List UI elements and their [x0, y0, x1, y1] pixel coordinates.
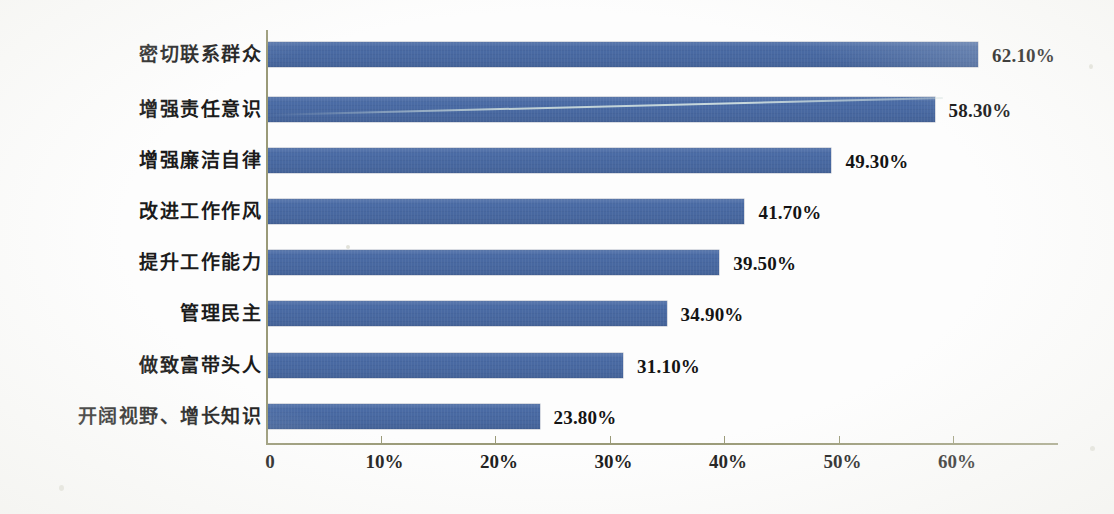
- category-label: 做致富带头人: [139, 356, 262, 375]
- scan-speck: [59, 485, 64, 491]
- x-axis-tick-label: 40%: [709, 452, 747, 471]
- category-label: 增强责任意识: [139, 100, 262, 119]
- bar-texture: [267, 404, 540, 429]
- category-label: 开阔视野、增长知识: [78, 407, 263, 426]
- x-axis-tick-label: 0: [265, 452, 275, 471]
- bar-texture: [267, 199, 744, 224]
- bar: [267, 301, 667, 326]
- bar-value-label: 62.10%: [992, 46, 1055, 65]
- x-axis-tick-label: 10%: [366, 452, 404, 471]
- x-axis-tick: [610, 436, 611, 444]
- bar-value-label: 31.10%: [637, 357, 700, 376]
- bar: [267, 250, 719, 275]
- category-label: 增强廉洁自律: [139, 151, 262, 170]
- bar-texture: [267, 42, 978, 67]
- y-axis-line: [266, 30, 268, 444]
- scan-speck: [1089, 64, 1093, 69]
- bar-texture: [267, 148, 831, 173]
- plot-area: 密切联系群众 增强责任意识 增强廉洁自律 改进工作作风 提升工作能力 管理民主 …: [0, 0, 1114, 514]
- x-axis-tick: [381, 436, 382, 444]
- bar-texture: [267, 250, 719, 275]
- x-axis-tick: [495, 436, 496, 444]
- bar: [267, 97, 935, 122]
- category-label: 管理民主: [180, 304, 262, 323]
- bar-value-label: 39.50%: [733, 254, 796, 273]
- bar: [267, 353, 623, 378]
- x-axis-tick: [953, 436, 954, 444]
- x-axis-tick-label: 50%: [824, 452, 862, 471]
- bar: [267, 199, 744, 224]
- bar-value-label: 34.90%: [681, 305, 744, 324]
- scan-speck: [1090, 446, 1095, 451]
- bar-chart: 密切联系群众 增强责任意识 增强廉洁自律 改进工作作风 提升工作能力 管理民主 …: [0, 0, 1114, 514]
- bar-value-label: 41.70%: [758, 203, 821, 222]
- x-axis-tick: [724, 436, 725, 444]
- bar-texture: [267, 301, 667, 326]
- bar: [267, 404, 540, 429]
- x-axis-tick-label: 20%: [480, 452, 518, 471]
- x-axis-tick-label: 60%: [938, 452, 976, 471]
- x-axis-tick-label: 30%: [595, 452, 633, 471]
- x-axis-line: [266, 443, 1058, 445]
- scan-speck: [346, 245, 350, 249]
- bar-value-label: 49.30%: [845, 152, 908, 171]
- category-label: 提升工作能力: [139, 253, 262, 272]
- category-label: 密切联系群众: [139, 45, 262, 64]
- x-axis-tick: [266, 436, 267, 444]
- scan-artifact: [267, 97, 942, 116]
- bar: [267, 42, 978, 67]
- bar: [267, 148, 831, 173]
- bar-value-label: 58.30%: [949, 101, 1012, 120]
- bar-texture: [267, 97, 935, 122]
- bar-value-label: 23.80%: [554, 408, 617, 427]
- x-axis-tick: [839, 436, 840, 444]
- category-label: 改进工作作风: [139, 202, 262, 221]
- bar-texture: [267, 353, 623, 378]
